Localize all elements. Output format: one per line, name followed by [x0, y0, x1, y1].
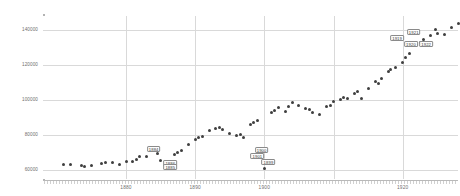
data-point — [436, 32, 439, 35]
data-point — [304, 107, 307, 110]
data-point — [270, 111, 273, 114]
data-point — [356, 90, 359, 93]
data-point — [125, 160, 128, 163]
data-point — [256, 119, 259, 122]
data-point — [353, 92, 356, 95]
data-point — [377, 82, 380, 85]
gridline-horizontal — [43, 30, 458, 31]
gridline-vertical — [334, 16, 335, 179]
x-axis-tick-label: 1880 — [120, 185, 131, 190]
data-point-annotation: 1899 — [262, 159, 276, 165]
data-point — [450, 26, 453, 29]
data-point — [221, 128, 224, 131]
data-point — [173, 153, 176, 156]
data-point-annotation: 1921 — [407, 29, 421, 35]
data-point — [187, 143, 190, 146]
data-point — [239, 133, 242, 136]
data-point — [318, 113, 321, 116]
data-point — [332, 100, 335, 103]
data-point-annotation: 1884 — [147, 146, 161, 152]
gridline-horizontal — [43, 100, 458, 101]
data-point — [277, 106, 280, 109]
data-point — [180, 149, 183, 152]
data-point — [404, 56, 407, 59]
data-point — [273, 109, 276, 112]
data-point — [111, 161, 114, 164]
data-point — [118, 163, 121, 166]
data-point — [367, 87, 370, 90]
data-point — [443, 33, 446, 36]
data-point — [408, 52, 411, 55]
x-axis-hatch — [44, 181, 458, 184]
data-point — [135, 158, 138, 161]
data-point — [201, 135, 204, 138]
data-point — [62, 163, 65, 166]
data-point — [287, 105, 290, 108]
data-point — [197, 136, 200, 139]
data-point — [138, 155, 141, 158]
scatter-chart: 1884188618851900190118991921191919201922… — [0, 0, 460, 196]
y-axis-tick-label: 60000 — [0, 167, 38, 172]
x-axis-tick-label: 1890 — [189, 185, 200, 190]
data-point — [235, 134, 238, 137]
data-point — [429, 34, 432, 37]
y-axis-tick-label: 120000 — [0, 62, 38, 67]
data-point — [242, 136, 245, 139]
data-point — [159, 159, 162, 162]
data-point — [297, 104, 300, 107]
data-point — [176, 151, 179, 154]
data-point — [325, 105, 328, 108]
gridline-vertical — [126, 16, 127, 179]
data-point — [208, 129, 211, 132]
data-point — [342, 96, 345, 99]
data-point — [346, 97, 349, 100]
data-point-annotation: 1920 — [404, 41, 418, 47]
gridline-horizontal — [43, 135, 458, 136]
data-point — [90, 164, 93, 167]
data-point — [308, 108, 311, 111]
data-point — [104, 161, 107, 164]
gridline-horizontal — [43, 170, 458, 171]
x-axis-tick-label: 1920 — [397, 185, 408, 190]
y-axis-tick-label: 80000 — [0, 132, 38, 137]
data-point — [401, 61, 404, 64]
gridline-vertical — [264, 16, 265, 179]
data-point-annotation: 1919 — [390, 35, 404, 41]
data-point — [291, 101, 294, 104]
data-point — [360, 97, 363, 100]
y-axis-tick-label: 140000 — [0, 27, 38, 32]
data-point-annotation: 1885 — [163, 164, 177, 170]
data-point — [228, 132, 231, 135]
data-point — [131, 160, 134, 163]
data-point — [100, 162, 103, 165]
data-point — [80, 164, 83, 167]
gridline-vertical — [195, 16, 196, 179]
data-point — [284, 110, 287, 113]
data-point — [145, 155, 148, 158]
data-point — [329, 104, 332, 107]
data-point — [218, 126, 221, 129]
data-point — [457, 22, 460, 25]
data-point — [394, 66, 397, 69]
x-axis-tick-label: 1900 — [259, 185, 270, 190]
data-point — [83, 165, 86, 168]
data-point — [214, 127, 217, 130]
data-point — [252, 121, 255, 124]
data-point — [380, 77, 383, 80]
data-point-annotation: 1922 — [419, 41, 433, 47]
plot-area: 1884188618851900190118991921191919201922 — [43, 16, 458, 179]
y-axis-tick-label: 100000 — [0, 97, 38, 102]
data-point — [249, 123, 252, 126]
data-point — [311, 111, 314, 114]
data-point — [69, 163, 72, 166]
